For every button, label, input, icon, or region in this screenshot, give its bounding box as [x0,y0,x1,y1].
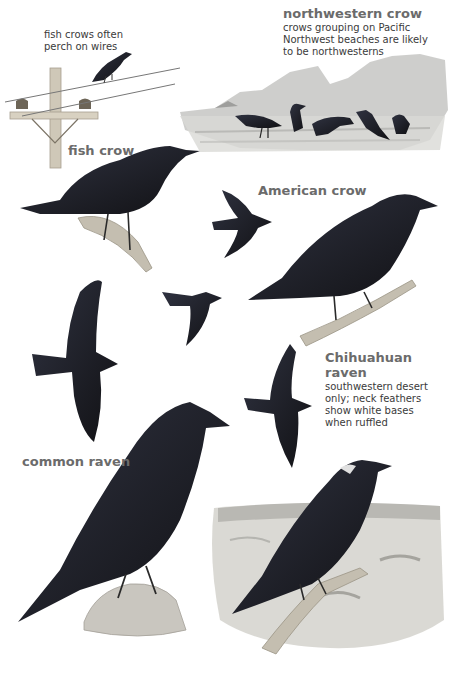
fish-crow-label: fish crow [68,143,134,158]
northwestern-crow-beach-scene [180,54,448,152]
label-line: Chihuahuan [325,350,412,365]
label-line: raven [325,365,412,380]
note-line: only; neck feathers [325,393,428,405]
note-line: fish crows often [44,29,123,41]
chihuahuan-raven-flight-illustration [244,344,312,468]
common-raven-perched-illustration [18,402,230,636]
common-raven-flight-illustration [32,280,118,442]
note-line: when ruffled [325,417,428,429]
note-line: to be northwesterns [283,46,428,58]
note-line: Northwest beaches are likely [283,34,428,46]
fish-crow-perched-illustration [20,146,200,272]
common-raven-label: common raven [22,454,130,469]
plate-illustrations [0,0,450,678]
american-crow-flight-illustration [212,190,272,258]
american-crow-perched-illustration [248,194,438,346]
note-line: crows grouping on Pacific [283,22,428,34]
northwestern-crow-label: northwestern crow [283,6,422,21]
note-line: perch on wires [44,41,123,53]
chihuahuan-raven-label: Chihuahuan raven [325,350,412,380]
field-guide-plate: northwestern crow crows grouping on Paci… [0,0,450,678]
crow-flight-small-illustration [162,292,222,346]
american-crow-label: American crow [258,183,367,198]
note-line: southwestern desert [325,381,428,393]
note-line: show white bases [325,405,428,417]
fish-crow-wire-note: fish crows often perch on wires [44,29,123,53]
northwestern-crow-note: crows grouping on Pacific Northwest beac… [283,22,428,58]
chihuahuan-raven-note: southwestern desert only; neck feathers … [325,381,428,429]
